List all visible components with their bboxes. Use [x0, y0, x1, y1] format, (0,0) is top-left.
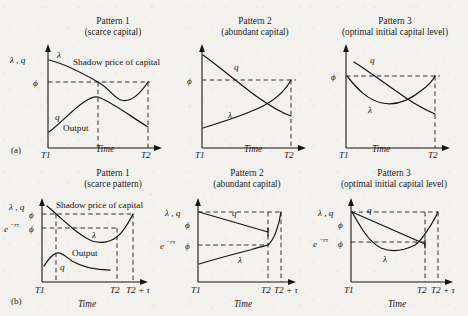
panel-a1-xlabel-t1: T1: [41, 150, 51, 160]
panel-a3-ylabel-phi: ϕ: [331, 72, 336, 82]
row-b-tag: (b): [11, 296, 22, 306]
panel-a2-x-axis-title: Time: [228, 144, 278, 155]
panel-b3-y-axis-arrow: [348, 198, 354, 206]
panel-b1-curve-lambda: [47, 206, 133, 242]
panel-a2-curve-lambda: [203, 80, 291, 128]
panel-a3-curvelabel-q: q: [370, 55, 375, 65]
panel-b1-ylabel-exponent: −rτ: [10, 221, 20, 228]
panel-b2-ylabel-exponent: −rτ: [166, 238, 176, 245]
panel-a3-curve-q: [354, 62, 435, 114]
panel-b3-xlabel-t2: T2: [417, 285, 427, 295]
panel-b1-annotation-output: Output: [72, 248, 98, 258]
panel-a1-xlabel-t2: T2: [141, 150, 151, 160]
panel-a1-ylabel-phi: ϕ: [33, 78, 38, 88]
panel-a3-y-axis-arrow: [343, 44, 349, 52]
panel-b2-ylabel-phi: ϕ: [185, 220, 190, 230]
panel-a1-ylabel-lambda-q: λ , q: [9, 55, 26, 65]
panel-a1-annotation-shadow-price: Shadow price of capital: [73, 57, 160, 67]
panel-b3-xlabel-t1: T1: [344, 285, 354, 295]
panel-b1-title-line1: Pattern 1: [58, 168, 168, 179]
panel-b3-ylabel-lambda-q: λ , q: [317, 208, 334, 218]
panel-b3-curve-q: [352, 212, 425, 244]
panel-b1-ylabel-lambda-q: λ , q: [8, 202, 25, 212]
panel-a1-title-line1: Pattern 1: [58, 16, 168, 27]
panel-b1-plot: λ , q ϕ e −rτ ϕ λ q Shadow price of capi…: [0, 190, 170, 300]
panel-b3-ylabel-discounted-phi: e −rτ ϕ: [313, 236, 343, 249]
panel-a2-curvelabel-q: q: [234, 62, 239, 72]
panel-b3-title-line1: Pattern 3: [320, 168, 468, 179]
panel-b2-curvelabel-q: q: [232, 208, 237, 218]
panel-b1-curvelabel-q: q: [60, 262, 65, 272]
panel-b2-xlabel-t1: T1: [191, 285, 201, 295]
panel-b2-x-axis-title: Time: [218, 299, 268, 310]
panel-b1-ylabel-discounted-phi: e −rτ ϕ: [4, 221, 34, 234]
panel-b1-x-axis-title: Time: [62, 299, 112, 310]
panel-a3-curvelabel-lambda: λ: [367, 105, 372, 115]
panel-b2-ylabel-e-prefix: e: [160, 241, 164, 251]
panel-b2-title-line1: Pattern 2: [192, 168, 302, 179]
panel-b3-xlabel-t2tau: T2 + τ: [431, 285, 455, 295]
panel-a3-title: Pattern 3 (optimal initial capital level…: [322, 16, 468, 37]
panel-b2-y-axis-arrow: [195, 198, 201, 206]
panel-a3-plot: ϕ q λ T1 T2: [310, 36, 468, 158]
panel-b2-plot: λ , q ϕ e −rτ ϕ q λ T1 T2 T2 + τ: [150, 190, 315, 300]
panel-b2-title-line2: (abundant capital): [192, 179, 302, 190]
panel-b1-xlabel-t2: T2: [110, 285, 120, 295]
panel-b3-title: Pattern 3 (optimal initial capital level…: [320, 168, 468, 189]
panel-b3-ylabel-e-prefix: e: [313, 239, 317, 249]
panel-b2-curvelabel-lambda: λ: [237, 255, 242, 265]
panel-a2-x-axis-arrow: [298, 145, 306, 151]
panel-a2-ylabel-phi: ϕ: [187, 76, 192, 86]
panel-a1-annotation-output: Output: [63, 123, 89, 133]
panel-a2-xlabel-t2: T2: [284, 150, 294, 160]
panel-a2-title: Pattern 2 (abundant capital): [200, 16, 310, 37]
panel-b2-xlabel-t2: T2: [261, 285, 271, 295]
panel-b3-ylabel-phi: ϕ: [338, 220, 343, 230]
panel-b2-ylabel-lambda-q: λ , q: [164, 208, 181, 218]
panel-b3-x-axis-title: Time: [372, 299, 422, 310]
panel-b1-curvelabel-lambda: λ: [91, 230, 96, 240]
panel-b1-xlabel-t1: T1: [35, 285, 45, 295]
panel-b2-title: Pattern 2 (abundant capital): [192, 168, 302, 189]
panel-a1-x-axis-title: Time: [80, 144, 130, 155]
panel-a3-curve-lambda: [347, 76, 435, 104]
panel-a2-curve-q: [203, 55, 291, 116]
panel-b1-ylabel-e-prefix: e: [4, 224, 8, 234]
panel-b3-plot: λ , q ϕ e −rτ ϕ q λ T1 T2 T2 + τ: [305, 190, 468, 300]
panel-a2-title-line1: Pattern 2: [200, 16, 310, 27]
panel-b1-ylabel-phi: ϕ: [29, 210, 34, 220]
panel-a3-xlabel-t2: T2: [428, 150, 438, 160]
panel-a2-xlabel-t1: T1: [195, 150, 205, 160]
panel-a1-title: Pattern 1 (scarce capital): [58, 16, 168, 37]
panel-b2-xlabel-t2tau: T2 + τ: [274, 285, 298, 295]
panel-a2-plot: ϕ q λ T1 T2: [160, 36, 320, 158]
panel-b1-y-axis-arrow: [39, 198, 45, 206]
panel-a1-curvelabel-lambda: λ: [56, 50, 61, 60]
panel-b3-ylabel-exponent: −rτ: [319, 236, 329, 243]
panel-b1-title-line2: (scarce pattern): [58, 179, 168, 190]
panel-a1-y-axis-arrow: [45, 44, 51, 52]
panel-a3-x-axis-title: Time: [356, 144, 406, 155]
panel-b1-ylabel-phi2: ϕ: [29, 224, 34, 234]
panel-a3-x-axis-arrow: [442, 145, 450, 151]
panel-b3-title-line2: (optimal initial capital level): [320, 179, 468, 190]
row-a-tag: (a): [11, 145, 21, 155]
panel-a2-y-axis-arrow: [199, 44, 205, 52]
panel-b3-curvelabel-lambda: λ: [382, 254, 387, 264]
panel-b1-xlabel-t2tau: T2 + τ: [126, 285, 150, 295]
panel-a1-plot: λ , q ϕ λ q Shadow price of capital Outp…: [0, 36, 170, 158]
figure-canvas: Pattern 1 (scarce capital) λ , q ϕ λ q S…: [0, 0, 468, 316]
panel-a1-curvelabel-q: q: [55, 112, 60, 122]
panel-a3-title-line1: Pattern 3: [322, 16, 468, 27]
panel-a2-curvelabel-lambda: λ: [227, 110, 232, 120]
panel-a3-xlabel-t1: T1: [339, 150, 349, 160]
panel-b2-ylabel-phi2: ϕ: [185, 241, 190, 251]
panel-b1-title: Pattern 1 (scarce pattern): [58, 168, 168, 189]
panel-b2-ylabel-discounted-phi: e −rτ ϕ: [160, 238, 190, 251]
panel-b3-ylabel-phi2: ϕ: [338, 239, 343, 249]
panel-b3-curvelabel-q: q: [367, 205, 372, 215]
panel-b1-annotation-shadow-price: Shadow price of capital: [56, 200, 143, 210]
